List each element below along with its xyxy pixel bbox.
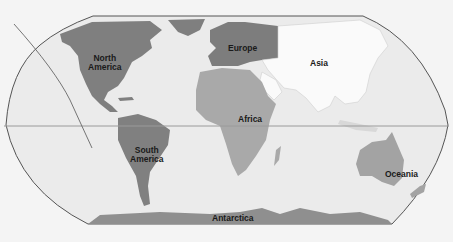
world-map: North America Europe Asia Africa South A… <box>0 0 453 242</box>
label-asia: Asia <box>310 59 328 68</box>
map-canvas <box>0 0 453 242</box>
label-antarctica: Antarctica <box>212 214 254 223</box>
label-oceania: Oceania <box>385 170 418 179</box>
label-europe: Europe <box>228 44 257 53</box>
label-africa: Africa <box>238 115 262 124</box>
label-north-america: North America <box>88 54 122 72</box>
label-south-america: South America <box>130 146 164 164</box>
